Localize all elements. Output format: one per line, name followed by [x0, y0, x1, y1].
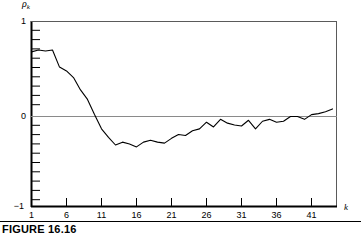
- x-tick-label-26: 26: [197, 211, 217, 220]
- x-tick-label-21: 21: [162, 211, 182, 220]
- x-tick-label-6: 6: [57, 211, 77, 220]
- x-tick-label-41: 41: [302, 211, 322, 220]
- y-axis-title: ̂ρk: [22, 0, 30, 11]
- caption-divider: [0, 221, 361, 222]
- x-tick-label-36: 36: [267, 211, 287, 220]
- x-tick-label-16: 16: [127, 211, 147, 220]
- acf-plot-svg: [0, 0, 361, 218]
- figure-container: ̂ρk k 1 0 −1 1 6 11 16 21 26 31 36 41 FI…: [0, 0, 361, 242]
- figure-caption: FIGURE 16.16: [2, 223, 77, 236]
- x-tick-label-1: 1: [22, 211, 42, 220]
- y-tick-label-0: 0: [8, 112, 26, 121]
- x-tick-label-11: 11: [92, 211, 112, 220]
- y-axis-title-subscript: k: [27, 3, 30, 11]
- y-tick-marks: [32, 30, 40, 199]
- y-axis-title-symbol: ̂ρ: [22, 0, 27, 9]
- acf-series-line: [32, 50, 333, 147]
- x-axis-title: k: [344, 203, 348, 212]
- x-tick-marks: [32, 198, 312, 206]
- plot-frame: [31, 21, 337, 207]
- y-tick-label-minus-1: −1: [6, 202, 24, 211]
- y-tick-label-1: 1: [8, 17, 26, 26]
- x-tick-label-31: 31: [232, 211, 252, 220]
- acf-plot: ̂ρk k 1 0 −1 1 6 11 16 21 26 31 36 41: [0, 0, 361, 218]
